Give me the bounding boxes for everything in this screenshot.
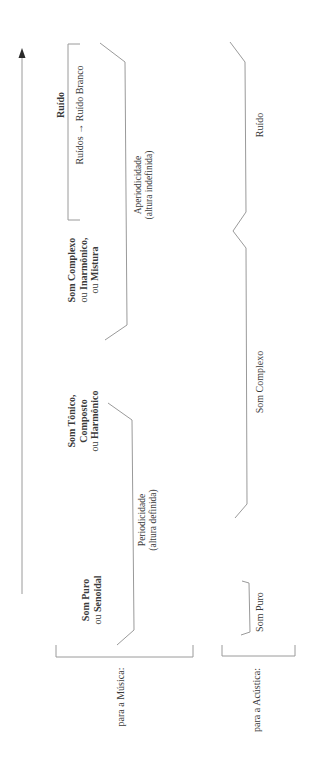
acustica-ruido-label: Ruído — [254, 75, 266, 175]
aperiodicidade-label: Aperiodicidade (altura indefinida) — [133, 120, 155, 250]
aperiodicidade-brace — [100, 43, 127, 340]
acustica-category-label: para a Acústica: — [251, 645, 263, 755]
acustica-som-puro-label: Som Puro — [254, 572, 266, 652]
periodicidade-brace — [108, 403, 134, 645]
arrow-up-icon — [19, 48, 26, 58]
som-complexo-inarmonico-label: Som Complexo ou Inarmônico, ou Mistura — [66, 200, 101, 340]
som-tonico-label: Som Tônico, Composto ou Harmônico — [66, 366, 101, 476]
musica-category-label: para a Música: — [115, 642, 127, 752]
som-puro-brace — [241, 581, 250, 635]
acustica-complexo-brace — [230, 42, 247, 518]
acustica-som-complexo-label: Som Complexo — [254, 312, 266, 452]
ruido-title: Ruído — [55, 50, 67, 160]
ruido-subtitle: Ruídos → Ruído Branco — [74, 40, 86, 190]
periodicidade-label: Periodicidade (altura definida) — [137, 455, 159, 585]
som-puro-senoidal-label: Som Puro ou Senoidal — [80, 540, 103, 660]
